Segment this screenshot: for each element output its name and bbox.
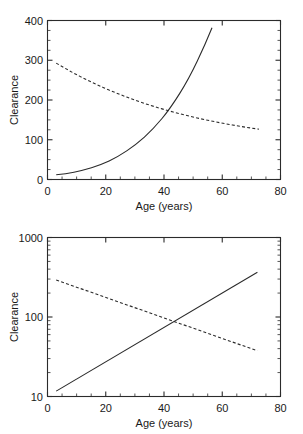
x-tick-label: 0	[44, 402, 50, 414]
panel-log-scale: 10 100 1000	[0, 217, 303, 434]
y-tick-label: 0	[37, 174, 43, 186]
x-tick-label: 60	[216, 402, 228, 414]
y-tick-label: 300	[25, 54, 43, 66]
data-curves-log	[56, 272, 257, 391]
y-axis-title: Clearance	[8, 292, 20, 342]
x-tick-labels-log: 0 20 40 60 80	[44, 402, 286, 414]
y-tick-labels-log: 10 100 1000	[19, 232, 43, 403]
data-curves-linear	[56, 28, 259, 175]
y-axis-ticks-linear	[48, 21, 281, 180]
series-increasing-clearance-line	[56, 272, 257, 391]
x-tick-labels-linear: 0 20 40 60 80	[44, 185, 286, 197]
y-tick-label: 100	[25, 134, 43, 146]
x-tick-label: 20	[100, 185, 112, 197]
clearance-vs-age-figure: 0 100 200 300 400	[0, 0, 303, 434]
x-tick-label: 80	[274, 185, 286, 197]
series-decreasing-clearance-curve	[56, 63, 259, 129]
y-tick-label: 1000	[19, 232, 43, 244]
y-tick-label: 10	[31, 391, 43, 403]
x-axis-ticks-log	[48, 238, 281, 397]
y-tick-label: 100	[25, 311, 43, 323]
panel-linear-scale: 0 100 200 300 400	[0, 0, 303, 217]
x-tick-label: 40	[158, 185, 170, 197]
x-tick-label: 20	[100, 402, 112, 414]
series-increasing-clearance-curve	[56, 28, 212, 175]
plot-frame-log	[48, 238, 281, 397]
x-tick-label: 0	[44, 185, 50, 197]
y-axis-ticks-log	[48, 238, 281, 397]
x-tick-label: 60	[216, 185, 228, 197]
y-tick-labels-linear: 0 100 200 300 400	[25, 15, 43, 186]
x-axis-title: Age (years)	[136, 417, 193, 429]
y-tick-label: 400	[25, 15, 43, 27]
y-axis-title: Clearance	[8, 75, 20, 125]
y-tick-label: 200	[25, 94, 43, 106]
x-axis-title: Age (years)	[136, 200, 193, 212]
x-tick-label: 40	[158, 402, 170, 414]
x-tick-label: 80	[274, 402, 286, 414]
x-axis-ticks-linear	[48, 21, 281, 180]
plot-frame-linear	[48, 21, 281, 180]
